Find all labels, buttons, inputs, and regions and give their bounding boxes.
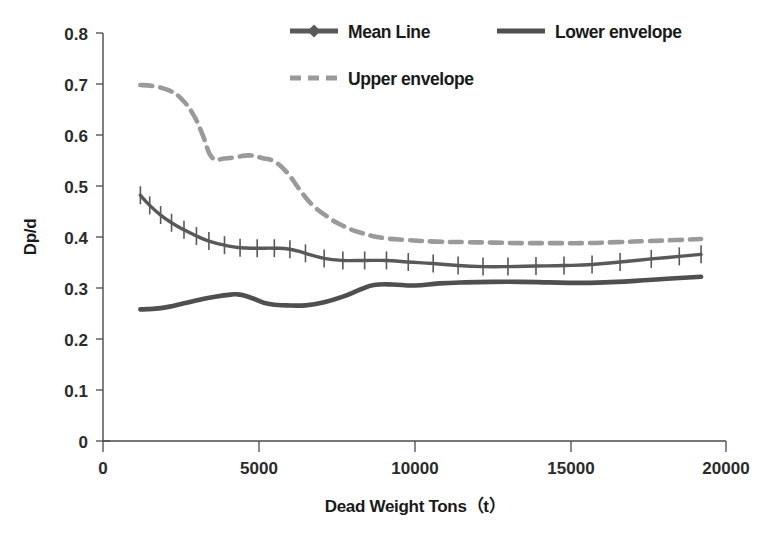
legend-label-lower-envelope: Lower envelope: [555, 22, 682, 42]
y-tick-label-0.1: 0.1: [64, 382, 88, 401]
x-tick-label-5000: 5000: [240, 459, 278, 478]
line-chart-canvas: 0.8 0.7 0.6 0.5 0.4 0.3 0.2 0.1 0 0 5000…: [0, 0, 769, 535]
legend-label-mean-line: Mean Line: [348, 22, 431, 42]
y-tick-label-0.7: 0.7: [64, 76, 88, 95]
chart-figure: 0.8 0.7 0.6 0.5 0.4 0.3 0.2 0.1 0 0 5000…: [0, 0, 769, 535]
y-tick-label-0: 0: [79, 433, 88, 452]
y-tick-label-0.8: 0.8: [64, 25, 88, 44]
y-tick-label-0.3: 0.3: [64, 280, 88, 299]
y-axis-title: Dp/d: [21, 219, 40, 256]
y-tick-label-0.2: 0.2: [64, 331, 88, 350]
x-tick-label-20000: 20000: [702, 459, 749, 478]
x-tick-label-10000: 10000: [391, 459, 438, 478]
x-tick-label-0: 0: [98, 459, 107, 478]
legend-label-upper-envelope: Upper envelope: [348, 69, 474, 89]
x-axis-title: Dead Weight Tons（t）: [325, 496, 506, 516]
y-tick-label-0.5: 0.5: [64, 178, 88, 197]
y-tick-label-0.6: 0.6: [64, 127, 88, 146]
y-tick-label-0.4: 0.4: [64, 229, 88, 248]
x-tick-label-15000: 15000: [547, 459, 594, 478]
